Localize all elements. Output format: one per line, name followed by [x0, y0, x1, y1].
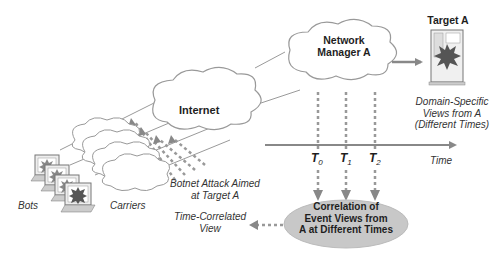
carriers-label: Carriers — [110, 200, 146, 212]
time-point-t1: T1 — [340, 152, 352, 168]
domain-views-line1: Domain-Specific — [405, 96, 499, 108]
network-manager-label: Network Manager A — [301, 34, 387, 58]
correlation-line2: Event Views from — [286, 213, 406, 225]
correlation-line1: Correlation of — [286, 201, 406, 213]
correlation-label: Correlation of Event Views from A at Dif… — [286, 201, 406, 236]
internet-cloud — [153, 67, 261, 129]
botnet-attack-line1: Botnet Attack Aimed — [165, 178, 265, 190]
botnet-attack-line2: at Target A — [165, 190, 265, 202]
time-drop-lines — [318, 92, 375, 190]
bot-laptops-icon — [31, 155, 95, 212]
t1-sub: 1 — [347, 158, 351, 167]
botnet-attack-label: Botnet Attack Aimed at Target A — [165, 178, 265, 201]
t2-sub: 2 — [376, 158, 380, 167]
internet-label: Internet — [179, 104, 219, 117]
target-label: Target A — [424, 14, 472, 26]
network-manager-line2: Manager A — [301, 46, 387, 58]
domain-views-label: Domain-Specific Views from A (Different … — [405, 96, 499, 131]
network-manager-line1: Network — [301, 34, 387, 46]
domain-views-line3: (Different Times) — [405, 119, 499, 131]
time-point-t0: T0 — [311, 152, 323, 168]
time-axis-label: Time — [430, 155, 452, 167]
botnet-correlation-diagram: Internet Network Manager A Target A Doma… — [0, 0, 499, 254]
bots-label: Bots — [18, 200, 38, 212]
time-correlated-label: Time-Correlated View — [170, 211, 250, 234]
time-correlated-line2: View — [170, 223, 250, 235]
t0-sub: 0 — [318, 158, 322, 167]
time-point-t2: T2 — [369, 152, 381, 168]
time-correlated-line1: Time-Correlated — [170, 211, 250, 223]
correlation-line3: A at Different Times — [286, 224, 406, 236]
domain-views-line2: Views from A — [405, 108, 499, 120]
target-server-icon — [429, 30, 465, 85]
